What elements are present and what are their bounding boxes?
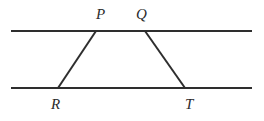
segment-PR [58,31,96,88]
label-T: T [185,97,193,112]
figure-canvas [0,0,264,121]
label-R: R [51,97,60,112]
geometry-figure: P Q R T [0,0,264,121]
label-P: P [96,7,105,22]
segment-QT [145,31,185,88]
label-Q: Q [136,7,147,22]
